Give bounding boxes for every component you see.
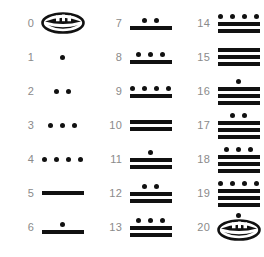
- bar-icon: [218, 62, 260, 66]
- maya-glyph: [122, 149, 176, 169]
- dot-icon: [60, 123, 65, 128]
- numeral-label: 1: [0, 52, 34, 63]
- bar-icon: [218, 169, 260, 173]
- dot-group: [218, 13, 259, 20]
- bar-group: [130, 26, 172, 30]
- numeral-label: 4: [0, 154, 34, 165]
- bar-icon: [218, 121, 260, 125]
- dot-icon: [148, 150, 153, 155]
- dot-group: [42, 156, 83, 163]
- dot-icon: [230, 181, 235, 186]
- dot-icon: [230, 14, 235, 19]
- numeral-row: 9: [88, 74, 176, 108]
- maya-glyph: [34, 221, 88, 234]
- bar-icon: [218, 87, 260, 91]
- maya-glyph: [210, 78, 264, 105]
- numeral-label: 0: [0, 18, 34, 29]
- numeral-label: 3: [0, 120, 34, 131]
- dot-icon: [160, 218, 165, 223]
- bar-group: [42, 230, 84, 234]
- dot-icon: [42, 157, 47, 162]
- maya-numeral-chart: 01234567891011121314151617181920: [0, 0, 264, 257]
- numeral-row: 2: [0, 74, 88, 108]
- bar-icon: [218, 203, 260, 207]
- maya-glyph: [34, 122, 88, 129]
- dot-group: [136, 217, 165, 224]
- dot-icon: [218, 14, 223, 19]
- bar-icon: [130, 120, 172, 124]
- maya-glyph: [210, 48, 264, 66]
- bar-group: [218, 121, 260, 139]
- dot-icon: [254, 14, 259, 19]
- bar-icon: [130, 94, 172, 98]
- numeral-column-2: 14151617181920: [176, 0, 264, 257]
- dot-group: [130, 85, 171, 92]
- bar-icon: [218, 94, 260, 98]
- numeral-row: 19: [176, 176, 264, 210]
- bar-icon: [218, 162, 260, 166]
- bar-icon: [130, 233, 172, 237]
- bar-icon: [218, 48, 260, 52]
- dot-group: [142, 17, 159, 24]
- numeral-label: 15: [176, 52, 210, 63]
- dot-icon: [236, 213, 241, 218]
- maya-glyph: [210, 180, 264, 207]
- numeral-row: 1: [0, 40, 88, 74]
- numeral-label: 13: [88, 222, 122, 233]
- maya-glyph: [210, 112, 264, 139]
- dot-icon: [148, 218, 153, 223]
- dot-icon: [166, 86, 171, 91]
- numeral-label: 2: [0, 86, 34, 97]
- bar-group: [218, 155, 260, 173]
- maya-glyph: [210, 213, 264, 241]
- bar-icon: [130, 158, 172, 162]
- shell-icon: [41, 12, 85, 34]
- dot-icon: [254, 181, 259, 186]
- numeral-label: 20: [176, 222, 210, 233]
- bar-icon: [218, 189, 260, 193]
- bar-icon: [130, 127, 172, 131]
- dot-icon: [142, 184, 147, 189]
- dot-icon: [224, 147, 229, 152]
- dot-group: [236, 78, 241, 85]
- dot-icon: [242, 181, 247, 186]
- numeral-row: 11: [88, 142, 176, 176]
- dot-group: [148, 149, 153, 156]
- bar-icon: [218, 101, 260, 105]
- dot-icon: [236, 147, 241, 152]
- dot-icon: [72, 123, 77, 128]
- numeral-row: 17: [176, 108, 264, 142]
- bar-icon: [218, 22, 260, 26]
- bar-group: [218, 189, 260, 207]
- dot-icon: [242, 113, 247, 118]
- dot-icon: [78, 157, 83, 162]
- dot-icon: [66, 89, 71, 94]
- maya-glyph: [34, 54, 88, 61]
- dot-group: [60, 221, 65, 228]
- dot-group: [224, 146, 253, 153]
- numeral-row: 14: [176, 6, 264, 40]
- dot-group: [218, 180, 259, 187]
- bar-icon: [42, 191, 84, 195]
- dot-group: [230, 112, 247, 119]
- dot-icon: [160, 52, 165, 57]
- numeral-label: 12: [88, 188, 122, 199]
- maya-glyph: [122, 51, 176, 64]
- numeral-label: 9: [88, 86, 122, 97]
- numeral-row: 16: [176, 74, 264, 108]
- dot-icon: [54, 157, 59, 162]
- numeral-row: 8: [88, 40, 176, 74]
- dot-icon: [130, 86, 135, 91]
- numeral-row: 0: [0, 6, 88, 40]
- dot-icon: [142, 86, 147, 91]
- bar-icon: [130, 192, 172, 196]
- numeral-row: 6: [0, 210, 88, 244]
- maya-glyph: [122, 17, 176, 30]
- bar-group: [218, 87, 260, 105]
- dot-group: [60, 54, 65, 61]
- numeral-label: 19: [176, 188, 210, 199]
- bar-group: [130, 226, 172, 237]
- dot-group: [54, 88, 71, 95]
- dot-icon: [48, 123, 53, 128]
- bar-icon: [130, 60, 172, 64]
